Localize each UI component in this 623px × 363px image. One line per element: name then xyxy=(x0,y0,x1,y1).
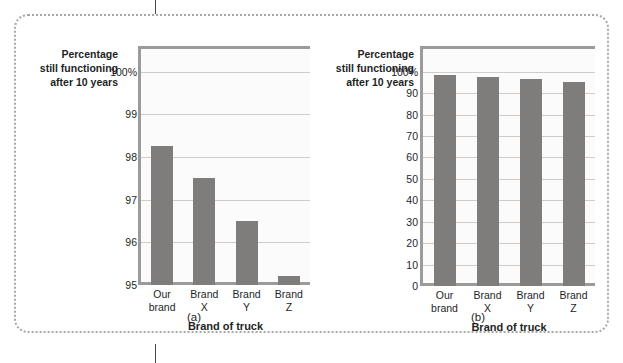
bar xyxy=(151,146,173,285)
plot-area-a xyxy=(141,46,310,285)
y-tick-label: 30 xyxy=(378,216,418,228)
page-tick-top xyxy=(155,0,156,14)
y-tick-label: 95 xyxy=(97,279,137,291)
y-tick-label: 98 xyxy=(97,151,137,163)
bar-series-a xyxy=(141,46,310,285)
figure-dotted-frame: Percentage still functioning after 10 ye… xyxy=(14,14,609,333)
bar xyxy=(278,276,300,285)
chart-panel-b: Percentage still functioning after 10 ye… xyxy=(316,16,608,335)
y-axis-desc-line-1: Percentage xyxy=(32,48,118,62)
chart-panel-a: Percentage still functioning after 10 ye… xyxy=(28,16,320,335)
y-tick-label: 90 xyxy=(378,87,418,99)
y-tick-label: 96 xyxy=(97,236,137,248)
y-tick-label: 97 xyxy=(97,194,137,206)
y-tick-label: 99 xyxy=(97,108,137,120)
y-tick-label: 70 xyxy=(378,130,418,142)
panel-caption-b: (b) xyxy=(316,311,608,323)
bar xyxy=(520,79,542,286)
y-tick-label: 0 xyxy=(378,280,418,292)
y-axis-desc-line-1: Percentage xyxy=(316,48,414,62)
bar xyxy=(563,82,585,286)
bar-series-b xyxy=(423,46,595,286)
page-tick-bottom xyxy=(155,344,156,363)
y-tick-label: 50 xyxy=(378,173,418,185)
panel-caption-a: (a) xyxy=(28,311,320,323)
bar xyxy=(236,221,258,285)
y-axis-desc-line-3: after 10 years xyxy=(32,76,118,90)
figure-page: Percentage still functioning after 10 ye… xyxy=(0,0,623,363)
y-tick-label: 100% xyxy=(97,66,137,78)
bar xyxy=(434,75,456,286)
y-tick-label: 10 xyxy=(378,259,418,271)
y-tick-label: 80 xyxy=(378,109,418,121)
y-tick-label: 20 xyxy=(378,237,418,249)
bar xyxy=(193,178,215,285)
y-tick-label: 60 xyxy=(378,151,418,163)
y-tick-label: 100% xyxy=(378,66,418,78)
y-tick-label: 40 xyxy=(378,194,418,206)
plot-area-b xyxy=(423,46,595,286)
bar xyxy=(477,77,499,286)
